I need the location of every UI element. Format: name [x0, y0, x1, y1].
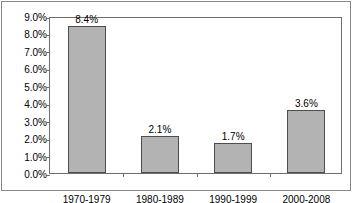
y-axis-tick-mark [46, 122, 50, 123]
x-axis-category-label: 1980-1989 [123, 194, 196, 201]
x-axis-tick-mark [123, 173, 124, 177]
y-axis-tick-mark [46, 105, 50, 106]
y-axis-tick-mark [46, 157, 50, 158]
bar: 2.1% [141, 136, 179, 173]
x-axis-tick-mark [197, 173, 198, 177]
y-axis-tick-mark [46, 52, 50, 53]
y-axis-tick-mark [46, 35, 50, 36]
y-axis-tick-mark [46, 140, 50, 141]
y-axis-tick-mark [46, 87, 50, 88]
x-axis-category-label: 2000-2008 [270, 194, 343, 201]
bar: 3.6% [287, 110, 325, 173]
x-axis-category-label: 1990-1999 [197, 194, 270, 201]
bar: 1.7% [214, 143, 252, 173]
x-axis-tick-mark [270, 173, 271, 177]
y-axis-tick-mark [46, 18, 50, 19]
bar-value-label: 8.4% [75, 14, 98, 25]
y-axis-tick-mark [46, 175, 50, 176]
bar-value-label: 3.6% [295, 98, 318, 109]
bar: 8.4% [68, 26, 106, 173]
bar-value-label: 1.7% [222, 131, 245, 142]
y-axis-tick-mark [46, 70, 50, 71]
chart-frame: 9.0%8.0%7.0%6.0%5.0%4.0%3.0%2.0%1.0%0.0%… [1, 1, 351, 191]
plot-area: 9.0%8.0%7.0%6.0%5.0%4.0%3.0%2.0%1.0%0.0%… [49, 17, 342, 174]
bar-value-label: 2.1% [148, 124, 171, 135]
x-axis-category-label: 1970-1979 [50, 194, 123, 201]
